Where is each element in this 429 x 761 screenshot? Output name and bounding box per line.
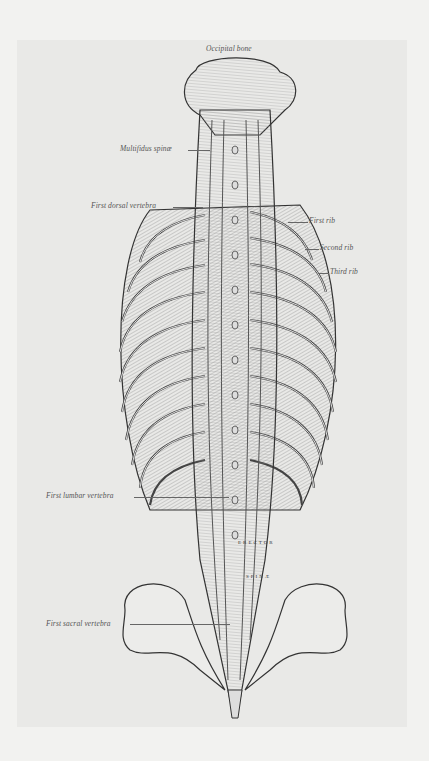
- leader-third-rib: [318, 273, 329, 274]
- label-erector: ERECTOR: [238, 540, 275, 545]
- leader-second-rib: [305, 249, 319, 250]
- leader-first-rib: [288, 222, 308, 223]
- label-first-dorsal-vertebra: First dorsal vertebra: [91, 201, 156, 210]
- label-first-lumbar-vertebra: First lumbar vertebra: [46, 491, 114, 500]
- leader-first-lumbar: [134, 497, 229, 498]
- label-occipital-bone: Occipital bone: [206, 44, 252, 53]
- label-second-rib: Second rib: [320, 243, 353, 252]
- label-first-sacral-vertebra: First sacral vertebra: [46, 619, 111, 628]
- leader-multifidus: [188, 150, 210, 151]
- erector-spinae-mass: [192, 110, 277, 700]
- leader-first-sacral: [130, 624, 230, 625]
- label-spinae: SPINÆ: [246, 574, 271, 579]
- label-multifidus-spinae: Multifidus spinæ: [120, 144, 172, 153]
- right-ilium: [245, 584, 347, 690]
- label-first-rib: First rib: [309, 216, 335, 225]
- coccyx: [228, 690, 242, 718]
- label-third-rib: Third rib: [330, 267, 358, 276]
- back-muscles-illustration: [0, 0, 429, 761]
- leader-first-dorsal: [173, 207, 203, 208]
